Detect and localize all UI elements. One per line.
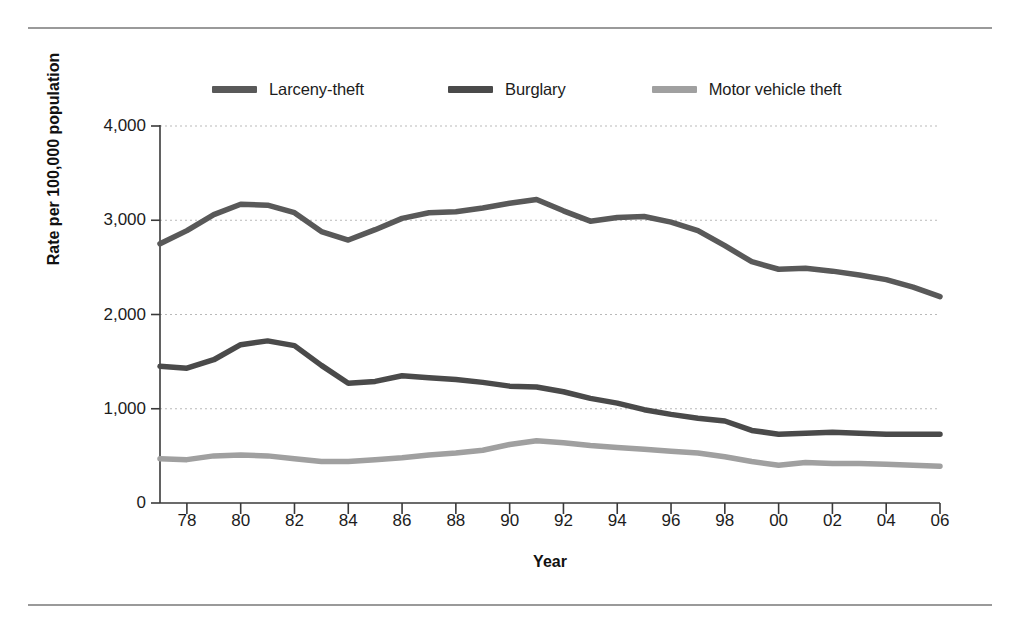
- x-tick-label: 06: [920, 511, 960, 531]
- y-axis-title: Rate per 100,000 population: [45, 19, 63, 299]
- x-tick-label: 78: [167, 511, 207, 531]
- legend-label-motor-vehicle-theft: Motor vehicle theft: [709, 80, 842, 99]
- x-axis-title: Year: [160, 553, 940, 571]
- x-tick-label: 84: [328, 511, 368, 531]
- x-tick-label: 92: [543, 511, 583, 531]
- x-tick-label: 02: [812, 511, 852, 531]
- legend-swatch-larceny-theft: [212, 86, 257, 93]
- x-tick-label: 98: [705, 511, 745, 531]
- legend-swatch-burglary: [448, 86, 493, 93]
- bottom-divider-rule: [28, 604, 992, 606]
- legend-swatch-motor-vehicle-theft: [652, 86, 697, 93]
- y-axis-tick-labels: 01,0002,0003,0004,000: [52, 126, 146, 503]
- y-tick-label: 4,000: [60, 116, 146, 136]
- x-tick-label: 94: [597, 511, 637, 531]
- legend-item-larceny-theft: Larceny-theft: [212, 80, 364, 99]
- plot-area: 01,0002,0003,0004,000 788082848688909294…: [160, 126, 940, 503]
- x-tick-label: 80: [221, 511, 261, 531]
- series-line-larceny-theft: [160, 200, 940, 297]
- x-tick-label: 00: [759, 511, 799, 531]
- series-line-burglary: [160, 341, 940, 434]
- x-tick-label: 96: [651, 511, 691, 531]
- series-line-motor-vehicle-theft: [160, 441, 940, 466]
- x-tick-label: 88: [436, 511, 476, 531]
- y-tick-label: 3,000: [60, 210, 146, 230]
- x-tick-label: 86: [382, 511, 422, 531]
- chart-figure: Larceny-theft Burglary Motor vehicle the…: [0, 0, 1018, 640]
- x-tick-label: 82: [274, 511, 314, 531]
- legend-label-larceny-theft: Larceny-theft: [269, 80, 364, 99]
- legend-label-burglary: Burglary: [505, 80, 566, 99]
- y-tick-label: 1,000: [60, 399, 146, 419]
- x-axis-tick-labels: 788082848688909294969800020406: [160, 511, 940, 541]
- plot-svg: [160, 126, 940, 503]
- y-tick-label: 2,000: [60, 305, 146, 325]
- y-tick-label: 0: [60, 493, 146, 513]
- x-tick-label: 90: [490, 511, 530, 531]
- top-divider-rule: [28, 27, 992, 29]
- chart-legend: Larceny-theft Burglary Motor vehicle the…: [180, 76, 880, 102]
- legend-item-burglary: Burglary: [448, 80, 566, 99]
- legend-item-motor-vehicle-theft: Motor vehicle theft: [652, 80, 842, 99]
- x-tick-label: 04: [866, 511, 906, 531]
